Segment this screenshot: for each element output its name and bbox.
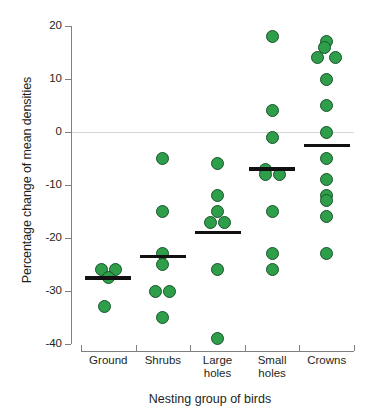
dot-plot-figure: Percentage change of mean densities 2010… <box>0 0 365 418</box>
x-axis-category-label-line1: Shrubs <box>145 354 181 366</box>
x-axis-category-label: Shrubs <box>132 354 194 367</box>
data-point <box>311 51 324 64</box>
data-point <box>320 126 333 139</box>
x-axis-category-label-line1: Large <box>203 354 232 366</box>
x-axis-category-label: Crowns <box>296 354 358 367</box>
y-axis-tick-label: 0 <box>22 126 62 138</box>
data-point <box>163 285 176 298</box>
y-axis-tick-label: 20 <box>22 20 62 32</box>
x-axis-category-label-line1: Small <box>258 354 287 366</box>
data-point <box>211 332 224 345</box>
median-bar <box>195 231 241 235</box>
x-axis-category-label: Largeholes <box>187 354 249 380</box>
data-point <box>266 247 279 260</box>
data-point <box>156 258 169 271</box>
data-point <box>320 152 333 165</box>
data-point <box>320 194 333 207</box>
x-axis-category-label: Smallholes <box>241 354 303 380</box>
x-axis-line <box>81 351 354 352</box>
y-axis-tick <box>65 238 71 239</box>
x-axis-category-label-line1: Crowns <box>307 354 346 366</box>
data-point <box>211 263 224 276</box>
x-axis-tick <box>354 345 355 351</box>
x-axis-title: Nesting group of birds <box>60 392 360 406</box>
y-axis-tick <box>65 185 71 186</box>
data-point <box>204 216 217 229</box>
data-point <box>320 173 333 186</box>
y-axis-tick <box>65 26 71 27</box>
data-point <box>156 205 169 218</box>
data-point <box>266 205 279 218</box>
y-axis-tick-label: -10 <box>22 179 62 191</box>
data-point <box>218 216 231 229</box>
x-axis-category-label-line1: Ground <box>89 354 127 366</box>
median-bar <box>85 276 131 280</box>
x-axis-category-label-line2: holes <box>241 367 303 380</box>
median-bar <box>249 167 295 171</box>
zero-reference-line <box>72 132 354 133</box>
data-point <box>320 210 333 223</box>
x-axis-category-label: Ground <box>77 354 139 367</box>
data-point <box>156 311 169 324</box>
data-point <box>266 30 279 43</box>
data-point <box>211 189 224 202</box>
data-point <box>149 285 162 298</box>
median-bar <box>140 255 186 259</box>
y-axis-tick <box>65 132 71 133</box>
y-axis-tick <box>65 291 71 292</box>
y-axis-tick-label: -20 <box>22 232 62 244</box>
data-point <box>320 99 333 112</box>
data-point <box>266 131 279 144</box>
x-axis-category-label-line2: holes <box>187 367 249 380</box>
data-point <box>329 51 342 64</box>
y-axis-tick <box>65 79 71 80</box>
data-point <box>320 247 333 260</box>
y-axis-tick-label: -40 <box>22 338 62 350</box>
y-axis-tick-label: 10 <box>22 73 62 85</box>
data-point <box>156 152 169 165</box>
data-point <box>211 157 224 170</box>
median-bar <box>304 144 350 148</box>
y-axis-tick <box>65 344 71 345</box>
data-point <box>266 263 279 276</box>
plot-area <box>72 20 354 349</box>
data-point <box>98 300 111 313</box>
data-point <box>266 104 279 117</box>
data-point <box>320 73 333 86</box>
y-axis-tick-label: -30 <box>22 285 62 297</box>
